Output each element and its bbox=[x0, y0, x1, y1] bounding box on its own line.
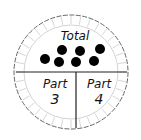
dot bbox=[71, 57, 81, 67]
part-part-whole-diagram bbox=[0, 0, 141, 140]
dot bbox=[95, 44, 105, 54]
part-1-label: Part bbox=[36, 78, 74, 90]
dot bbox=[54, 57, 64, 67]
part-1-value: 3 bbox=[36, 92, 74, 106]
dot bbox=[89, 56, 99, 66]
total-dots bbox=[40, 44, 105, 67]
dot bbox=[75, 46, 85, 56]
part-2-value: 4 bbox=[80, 92, 118, 106]
dot bbox=[57, 45, 67, 55]
total-label: Total bbox=[55, 30, 95, 42]
part-2-label: Part bbox=[80, 78, 118, 90]
dot bbox=[40, 54, 50, 64]
